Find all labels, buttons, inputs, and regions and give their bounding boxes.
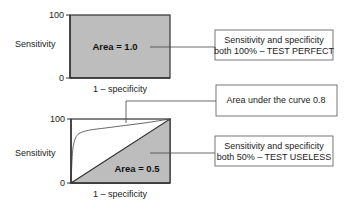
bottom-y-axis-label: Sensitivity [15, 148, 56, 158]
top-y-axis-label: Sensitivity [15, 39, 56, 49]
bottom-area-label: Area = 0.5 [114, 163, 160, 174]
bottom-ytick-label-100: 100 [50, 114, 65, 124]
top-ytick-label-100: 100 [49, 10, 64, 20]
auc-callout: Area under the curve 0.8 [216, 85, 337, 116]
top-callout-line-2: both 100% – TEST PERFECT [214, 46, 335, 56]
auc-callout-text: Area under the curve 0.8 [226, 95, 325, 105]
top-callout-line-1: Sensitivity and specificity [224, 35, 324, 45]
bottom-callout-line-2: both 50% – TEST USELESS [217, 152, 332, 162]
bottom-x-axis-label: 1 – specificity [93, 189, 148, 199]
top-area-label: Area = 1.0 [92, 41, 137, 52]
top-chart: 100 0 Sensitivity 1 – specificity Area =… [15, 10, 170, 94]
bottom-callout-line-1: Sensitivity and specificity [224, 141, 324, 151]
bottom-callout: Sensitivity and specificity both 50% – T… [215, 136, 333, 166]
bottom-ytick-label-0: 0 [60, 178, 65, 188]
bottom-chart: 100 0 Sensitivity 1 – specificity Area =… [15, 114, 170, 199]
roc-diagram: 100 0 Sensitivity 1 – specificity Area =… [0, 0, 351, 208]
top-callout: Sensitivity and specificity both 100% – … [214, 30, 335, 60]
top-x-axis-label: 1 – specificity [93, 84, 148, 94]
top-ytick-label-0: 0 [59, 73, 64, 83]
